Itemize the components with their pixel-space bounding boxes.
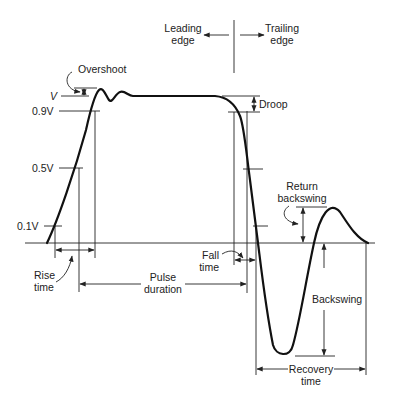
level-v-label: V	[50, 90, 58, 102]
pulse-duration-label-2: duration	[144, 283, 182, 295]
trailing-edge-label-2: edge	[270, 34, 294, 46]
overshoot-annotation: Overshoot	[67, 63, 126, 95]
rise-time-label-1: Rise	[34, 269, 55, 281]
overshoot-label: Overshoot	[78, 63, 127, 75]
droop-label: Droop	[259, 98, 288, 110]
rise-time-label-2: time	[34, 281, 54, 293]
recovery-time-label-2: time	[301, 375, 321, 387]
recovery-time-annotation: Recovery time	[257, 363, 365, 387]
edge-header: Leading edge Trailing edge	[164, 20, 299, 73]
level-markers: V 0.9V 0.5V 0.1V	[17, 90, 268, 232]
rise-time-pointer-icon	[56, 256, 72, 282]
fall-time-pointer-icon	[222, 251, 243, 258]
fall-time-label-2: time	[199, 261, 219, 273]
level-50-label: 0.5V	[32, 162, 54, 174]
overshoot-pointer-icon	[67, 72, 80, 92]
fall-time-label-1: Fall	[202, 249, 219, 261]
recovery-time-label-1: Recovery	[289, 363, 334, 375]
leading-edge-label-2: edge	[171, 34, 195, 46]
leading-edge-label-1: Leading	[164, 22, 202, 34]
return-backswing-annotation: Return backswing	[277, 180, 327, 242]
backswing-label: Backswing	[312, 293, 362, 305]
rise-time-annotation: Rise time	[34, 250, 94, 293]
return-backswing-label-1: Return	[286, 180, 318, 192]
return-backswing-pointer-icon	[284, 206, 298, 224]
level-90-label: 0.9V	[32, 105, 54, 117]
trailing-edge-label-1: Trailing	[265, 22, 299, 34]
pulse-duration-label-1: Pulse	[150, 271, 176, 283]
pulse-duration-annotation: Pulse duration	[80, 271, 246, 295]
level-10-label: 0.1V	[17, 220, 39, 232]
backswing-annotation: Backswing	[295, 244, 362, 356]
pulse-diagram: Leading edge Trailing edge V 0.9V 0.5V 0…	[0, 0, 403, 405]
return-backswing-label-2: backswing	[277, 192, 326, 204]
